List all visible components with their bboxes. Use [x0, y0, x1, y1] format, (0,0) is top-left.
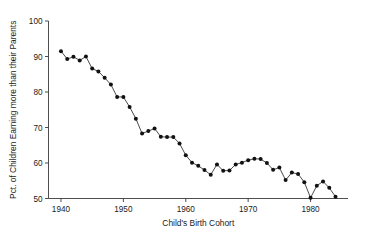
data-point-marker: 1976: 55.2: [284, 178, 288, 182]
y-axis-title: Pct. of Children Earning more than their…: [8, 21, 18, 199]
data-point-marker: 1961: 60.1: [190, 161, 194, 165]
data-point-marker: 1956: 67.4: [159, 135, 163, 139]
y-tick-label: 100: [29, 17, 43, 26]
data-point-marker: 1945: 86.6: [90, 67, 94, 71]
data-point-marker: 1964: 56.7: [209, 173, 213, 177]
data-point-marker: 1962: 59.2: [196, 164, 200, 168]
data-point-marker: 1977: 57.3: [290, 171, 294, 175]
data-point-marker: 1968: 59.6: [234, 162, 238, 166]
y-tick-label: 50: [33, 195, 43, 204]
data-point-marker: 1967: 57.9: [227, 168, 231, 172]
data-point-marker: 1973: 60: [265, 161, 269, 165]
data-point-marker: 1944: 90: [84, 55, 88, 59]
data-point-marker: 1970: 60.8: [246, 158, 250, 162]
data-point-marker: 1975: 58.7: [277, 166, 281, 170]
data-point-marker: 1981: 53.6: [315, 184, 319, 188]
x-axis-ticks: 19401950196019701980: [52, 199, 320, 214]
absolute-mobility-line-chart: 5060708090100 19401950196019701980 1940:…: [0, 0, 366, 237]
data-point-marker: 1972: 61.1: [259, 157, 263, 161]
data-point-marker: 1940: 91.5: [59, 49, 63, 53]
data-point-marker: 1943: 88.9: [78, 58, 82, 62]
data-point-marker: 1949: 78.6: [115, 95, 119, 99]
data-point-marker: 1969: 60.1: [240, 161, 244, 165]
x-tick-label: 1970: [239, 205, 258, 214]
x-tick-label: 1940: [52, 205, 71, 214]
data-point-marker: 1942: 89.9: [71, 55, 75, 59]
data-point-marker: 1974: 58.1: [271, 168, 275, 172]
x-tick-label: 1950: [114, 205, 133, 214]
y-tick-label: 70: [33, 124, 43, 133]
x-tick-label: 1960: [177, 205, 196, 214]
data-point-marker: 1984: 50.5: [334, 195, 338, 199]
data-series-markers: 1940: 91.51941: 89.31942: 89.91943: 88.9…: [59, 49, 338, 200]
data-point-marker: 1959: 65.5: [178, 141, 182, 145]
data-point-marker: 1978: 56.9: [296, 172, 300, 176]
data-point-marker: 1950: 78.6: [121, 95, 125, 99]
data-point-marker: 1955: 69.7: [153, 127, 157, 131]
x-axis-title: Child's Birth Cohort: [162, 218, 235, 228]
data-point-marker: 1965: 59.6: [215, 162, 219, 166]
data-point-marker: 1980: 50.2: [309, 196, 313, 200]
data-point-marker: 1951: 75.8: [128, 105, 132, 109]
y-tick-label: 80: [33, 88, 43, 97]
data-point-marker: 1960: 62.2: [184, 153, 188, 157]
data-point-marker: 1948: 82.1: [109, 83, 113, 87]
data-point-marker: 1953: 68.3: [140, 132, 144, 136]
y-tick-label: 60: [33, 159, 43, 168]
data-point-marker: 1946: 85.8: [96, 69, 100, 73]
data-point-marker: 1957: 67.3: [165, 135, 169, 139]
data-point-marker: 1941: 89.3: [65, 57, 69, 61]
chart-figure: 5060708090100 19401950196019701980 1940:…: [0, 0, 366, 237]
data-point-marker: 1952: 72.5: [134, 117, 138, 121]
data-point-marker: 1982: 54.8: [321, 179, 325, 183]
x-tick-label: 1980: [301, 205, 320, 214]
data-point-marker: 1983: 53: [327, 186, 331, 190]
data-point-marker: 1963: 58: [202, 168, 206, 172]
data-series-line: [61, 51, 336, 198]
data-point-marker: 1971: 61.2: [252, 157, 256, 161]
data-point-marker: 1947: 84: [103, 76, 107, 80]
data-point-marker: 1979: 54.6: [302, 180, 306, 184]
y-tick-label: 90: [33, 53, 43, 62]
data-point-marker: 1954: 69: [146, 129, 150, 133]
data-point-marker: 1958: 67.3: [171, 135, 175, 139]
y-axis-ticks: 5060708090100: [29, 17, 49, 204]
data-point-marker: 1966: 57.8: [221, 169, 225, 173]
